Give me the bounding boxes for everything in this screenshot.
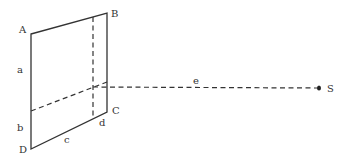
label-segment-c: c	[64, 134, 70, 145]
label-segment-e: e	[193, 75, 199, 86]
plane-abcd	[31, 13, 107, 149]
label-point-s: S	[327, 83, 334, 94]
label-segment-d: d	[99, 117, 106, 128]
horizontal-dashed-line	[31, 82, 107, 111]
point-s-dot	[317, 86, 321, 91]
label-vertex-a: A	[18, 24, 27, 35]
label-vertex-c: C	[112, 105, 120, 116]
label-segment-a: a	[17, 64, 23, 75]
label-segment-b: b	[17, 122, 23, 133]
label-vertex-d: D	[19, 144, 27, 155]
diagram-canvas: A B C D a b c d e S	[0, 0, 352, 162]
ray-to-s	[93, 87, 318, 88]
label-vertex-b: B	[111, 8, 118, 19]
